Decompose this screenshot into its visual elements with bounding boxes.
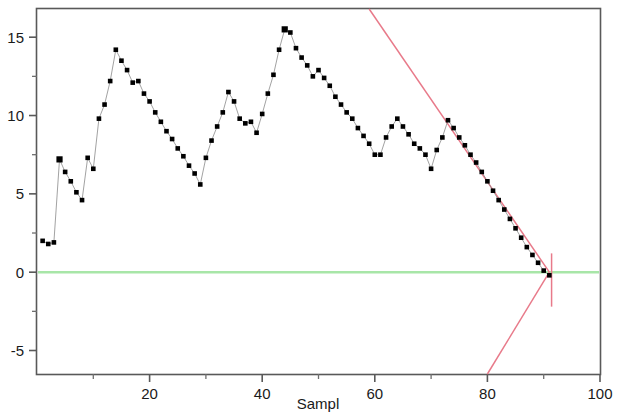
y-tick-label-0: 0	[16, 264, 24, 281]
data-point-marker	[254, 130, 259, 135]
data-point-marker	[97, 116, 102, 121]
data-point-marker	[159, 119, 164, 124]
data-point-marker	[367, 141, 372, 146]
x-axis-title: Sampl	[297, 395, 340, 412]
data-point-marker	[125, 68, 130, 73]
data-point-marker	[226, 90, 231, 95]
data-point-marker	[198, 182, 203, 187]
data-point-marker	[46, 242, 51, 247]
data-point-marker	[311, 74, 316, 79]
data-point-marker	[457, 135, 462, 140]
data-point-marker	[102, 102, 107, 107]
data-point-marker	[277, 47, 282, 52]
data-point-marker	[249, 119, 254, 124]
data-point-marker	[322, 76, 327, 81]
data-point-marker	[429, 166, 434, 171]
data-point-marker	[536, 260, 541, 265]
data-point-marker	[423, 152, 428, 157]
data-point-marker	[91, 166, 96, 171]
data-point-marker	[305, 63, 310, 68]
data-point-marker	[153, 110, 158, 115]
data-point-marker	[181, 154, 186, 159]
data-point-marker	[215, 124, 220, 129]
data-point-marker	[389, 124, 394, 129]
data-point-marker	[451, 126, 456, 131]
data-point-marker	[80, 198, 85, 203]
data-point-marker	[356, 126, 361, 131]
data-point-marker	[260, 112, 265, 117]
x-tick-label-80: 80	[479, 385, 496, 402]
data-point-marker	[384, 135, 389, 140]
data-point-marker	[547, 273, 552, 278]
data-point-marker	[344, 110, 349, 115]
x-tick-label-40: 40	[254, 385, 271, 402]
data-point-marker	[130, 80, 135, 85]
data-point-marker	[350, 116, 355, 121]
data-point-marker	[496, 198, 501, 203]
x-tick-label-20: 20	[141, 385, 158, 402]
data-point-marker	[434, 148, 439, 153]
data-point-marker	[412, 141, 417, 146]
data-point-marker	[339, 102, 344, 107]
data-point-marker	[142, 91, 147, 96]
x-axis-tick-labels: 20406080100	[141, 385, 612, 402]
data-point-marker	[243, 121, 248, 126]
data-point-marker	[519, 235, 524, 240]
data-point-marker	[479, 170, 484, 175]
data-point-marker	[525, 245, 530, 250]
data-point-marker	[232, 99, 237, 104]
data-point-marker	[40, 239, 45, 244]
data-point-marker	[361, 134, 366, 139]
data-point-marker	[209, 138, 214, 143]
y-tick-label--5: -5	[11, 342, 24, 359]
data-point-marker	[192, 171, 197, 176]
data-point-marker	[52, 240, 57, 245]
y-tick-label-15: 15	[7, 29, 24, 46]
data-point-marker	[282, 26, 288, 32]
data-point-marker	[63, 170, 68, 175]
x-tick-label-100: 100	[587, 385, 612, 402]
y-tick-label-10: 10	[7, 107, 24, 124]
data-point-marker	[119, 58, 124, 63]
data-point-marker	[541, 268, 546, 273]
plot-area-border	[37, 9, 601, 375]
data-point-marker	[395, 116, 400, 121]
line-chart: -5051015 20406080100 Sampl	[0, 0, 617, 417]
data-point-marker	[220, 110, 225, 115]
data-point-marker	[530, 253, 535, 258]
data-point-marker	[294, 46, 299, 51]
data-point-marker	[266, 91, 271, 96]
data-point-marker	[406, 132, 411, 137]
data-point-marker	[187, 163, 192, 168]
x-tick-label-60: 60	[366, 385, 383, 402]
data-point-marker	[136, 79, 141, 84]
data-point-marker	[333, 94, 338, 99]
data-point-marker	[204, 156, 209, 161]
data-point-marker	[74, 190, 79, 195]
data-point-marker	[491, 188, 496, 193]
data-point-marker	[440, 135, 445, 140]
chart-container: -5051015 20406080100 Sampl	[0, 0, 617, 417]
data-point-marker	[401, 124, 406, 129]
data-point-marker	[513, 226, 518, 231]
data-point-marker	[299, 55, 304, 60]
data-point-marker	[147, 99, 152, 104]
data-point-marker	[68, 179, 73, 184]
data-point-marker	[85, 156, 90, 161]
data-point-marker	[474, 160, 479, 165]
data-point-marker	[508, 217, 513, 222]
data-point-marker	[463, 143, 468, 148]
data-point-marker	[485, 179, 490, 184]
data-point-marker	[164, 129, 169, 134]
data-point-marker	[108, 79, 113, 84]
data-point-marker	[378, 152, 383, 157]
data-point-marker	[502, 207, 507, 212]
data-point-marker	[114, 47, 119, 52]
data-point-marker	[316, 68, 321, 73]
data-point-marker	[327, 83, 332, 88]
data-point-marker	[418, 146, 423, 151]
data-point-marker	[56, 156, 62, 162]
data-point-marker	[170, 137, 175, 142]
data-point-marker	[288, 30, 293, 35]
y-axis-tick-labels: -5051015	[7, 29, 24, 359]
